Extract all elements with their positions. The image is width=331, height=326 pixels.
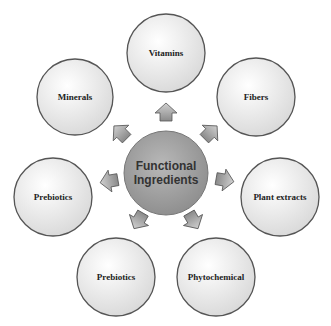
arrow-icon-minerals — [106, 118, 134, 146]
center-label-line2: Ingredients — [134, 173, 199, 187]
functional-ingredients-diagram: Functional Ingredients Vitamins Fibers P… — [0, 0, 331, 326]
arrow-icon-prebiotics-left — [98, 169, 120, 194]
node-phytochemical: Phytochemical — [177, 238, 255, 316]
node-prebiotics-bottom: Prebiotics — [77, 238, 155, 316]
node-prebiotics-left: Prebiotics — [14, 158, 92, 236]
node-plant-extracts: Plant extracts — [241, 158, 319, 236]
node-fibers: Fibers — [217, 58, 295, 136]
node-label: Fibers — [244, 92, 269, 102]
node-label: Prebiotics — [97, 272, 136, 282]
node-vitamins: Vitamins — [127, 14, 205, 92]
node-label: Phytochemical — [188, 272, 245, 282]
arrow-icon-vitamins — [155, 103, 177, 121]
node-label: Plant extracts — [253, 192, 307, 202]
center-label-line1: Functional — [136, 159, 197, 173]
arrow-icon-fibers — [197, 118, 225, 146]
node-label: Vitamins — [149, 48, 184, 58]
node-minerals: Minerals — [37, 59, 113, 135]
node-label: Prebiotics — [34, 192, 73, 202]
node-label: Minerals — [58, 92, 93, 102]
center-node: Functional Ingredients — [124, 131, 208, 215]
arrow-icon-plant-extracts — [214, 168, 236, 193]
